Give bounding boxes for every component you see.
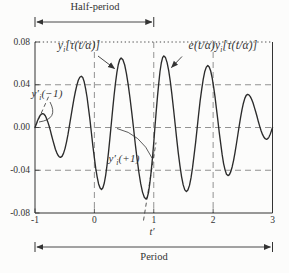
slope-label-plus-one: y′i(+1): [108, 152, 139, 167]
x-tick-label: 2: [211, 215, 216, 225]
curve-label-left: yi[τ(t/α)]: [58, 39, 100, 54]
curve-label-right: e(t/α)yi[τ(t/α)]: [189, 39, 258, 54]
curve-label-left-rest: [τ(t/α)]: [65, 39, 100, 51]
y-tick-label: 0.08: [0, 37, 30, 47]
slope-right-rest: (+1): [118, 152, 139, 164]
slope-left-leader: [39, 102, 53, 122]
slope-right-base: y′: [108, 152, 116, 164]
y-tick-label: 0.04: [0, 79, 30, 89]
x-tick-label: 3: [270, 215, 275, 225]
y-tick-label: 0.00: [0, 122, 30, 132]
y-tick-label: -0.08: [0, 208, 30, 218]
y-tick-label: -0.04: [0, 165, 30, 175]
curve-label-left-arrow: [98, 56, 115, 69]
slope-left-rest: (−1): [41, 87, 62, 99]
slope-left-base: y′: [31, 87, 39, 99]
x-tick-label: -1: [31, 215, 39, 225]
x-tick-label: 0: [92, 215, 97, 225]
figure: Half-period Period yi[τ(t/α)] e(t/α)yi[τ…: [0, 0, 289, 273]
x-axis-label: t′: [149, 226, 154, 237]
slope-label-minus-one: y′i(−1): [31, 87, 62, 102]
curve-label-right-arrow: [172, 57, 183, 68]
curve-label-right-rest: [τ(t/α)]: [223, 39, 258, 51]
x-tick-label: 1: [151, 215, 156, 225]
curve-label-right-base: e(t/α)y: [189, 39, 221, 51]
half-period-label: Half-period: [71, 1, 120, 12]
period-label: Period: [140, 251, 167, 262]
